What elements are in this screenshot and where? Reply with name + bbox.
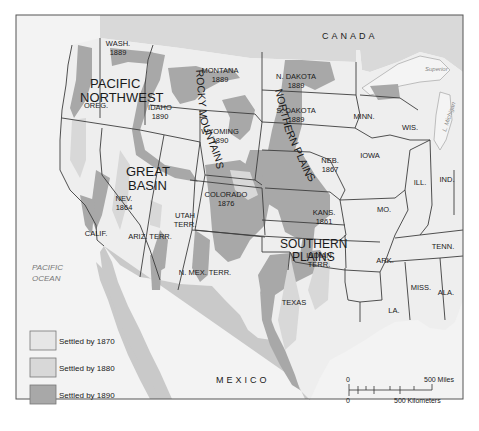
state-year-nev: 1864 [116,203,133,212]
state-label-wis: WIS. [402,123,418,132]
state-label-sdakota: S. DAKOTA [276,106,315,115]
state-year-montana: 1889 [212,75,229,84]
label-great-basin-2: BASIN [128,178,167,193]
legend-label-2: Settled by 1880 [59,364,115,373]
state-label-la: LA. [388,306,399,315]
state-year-kans: 1861 [316,217,333,226]
scale-zero-miles: 0 [346,376,350,383]
legend-label-1: Settled by 1870 [59,337,115,346]
label-great-basin-1: GREAT [126,164,170,179]
state-label-ala: ALA. [438,288,454,297]
state-year-idaho: 1890 [152,112,169,121]
state-label-neb: NEB. [321,156,339,165]
state-label-ind: IND. [440,175,455,184]
legend-label-3: Settled by 1890 [59,391,115,400]
state-year-sdakota: 1889 [288,115,305,124]
legend: Settled by 1870Settled by 1880Settled by… [30,331,115,404]
state-label-wash: WASH. [106,39,130,48]
state-year-wyoming: 1890 [212,136,229,145]
scale-km-label: 500 Kilometers [394,397,441,404]
label-ocean-line1: PACIFIC [32,263,63,272]
scale-miles-label: 500 Miles [424,376,454,383]
state-year-indian: TERR. [308,260,331,269]
state-label-indian: INDIAN [306,251,331,260]
state-label-tenn: TENN. [432,242,455,251]
state-year-wash: 1889 [110,48,127,57]
state-label-ariz: ARIZ. TERR. [128,232,172,241]
label-ocean-line2: OCEAN [32,274,61,283]
state-label-colorado: COLORADO [205,190,248,199]
state-year-neb: 1867 [322,165,339,174]
state-label-iowa: IOWA [360,151,380,160]
state-label-idaho: IDAHO [148,103,172,112]
state-label-ill: ILL. [414,178,427,187]
state-label-minn: MINN. [353,112,374,121]
label-southern-plains-1: SOUTHERN [280,237,347,251]
label-canada: CANADA [322,31,378,41]
label-lake-superior: Superior [425,66,449,72]
state-label-utah: UTAH [175,211,195,220]
label-mexico: MEXICO [216,375,270,385]
state-label-nmex: N. MEX. TERR. [179,268,231,277]
state-label-nev: NEV. [116,194,133,203]
state-label-oreg: OREG. [84,101,108,110]
legend-swatch-1 [30,331,56,350]
state-label-texas: TEXAS [282,298,307,307]
state-label-miss: MISS. [411,283,431,292]
settlement-map: CANADA MEXICO PACIFIC OCEAN Superior L. … [0,0,479,431]
state-year-utah: TERR. [174,220,197,229]
state-year-colorado: 1876 [218,199,235,208]
state-label-calif: CALIF. [85,229,108,238]
state-label-kans: KANS. [313,208,336,217]
state-label-wyoming: WYOMING [201,127,239,136]
state-label-montana: MONTANA [202,66,239,75]
legend-swatch-3 [30,385,56,404]
state-year-ndakota: 1889 [288,81,305,90]
state-label-ark: ARK. [376,256,394,265]
state-label-mo: MO. [377,205,391,214]
label-pacific-northwest-1: PACIFIC [90,76,140,91]
legend-swatch-2 [30,358,56,377]
scale-zero-km: 0 [346,397,350,404]
state-label-ndakota: N. DAKOTA [276,72,316,81]
